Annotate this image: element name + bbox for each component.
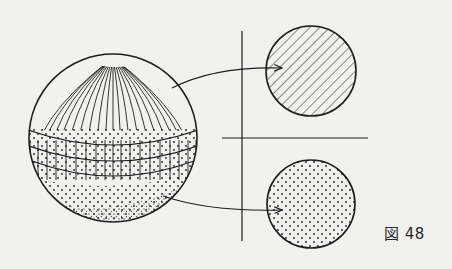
figure-caption: 図 48	[384, 222, 425, 243]
circle-top	[260, 20, 370, 130]
figure-canvas: 図 48	[0, 0, 452, 269]
sphere	[20, 51, 210, 235]
circle-bottom	[260, 155, 370, 255]
arrow-bottom	[163, 196, 282, 210]
